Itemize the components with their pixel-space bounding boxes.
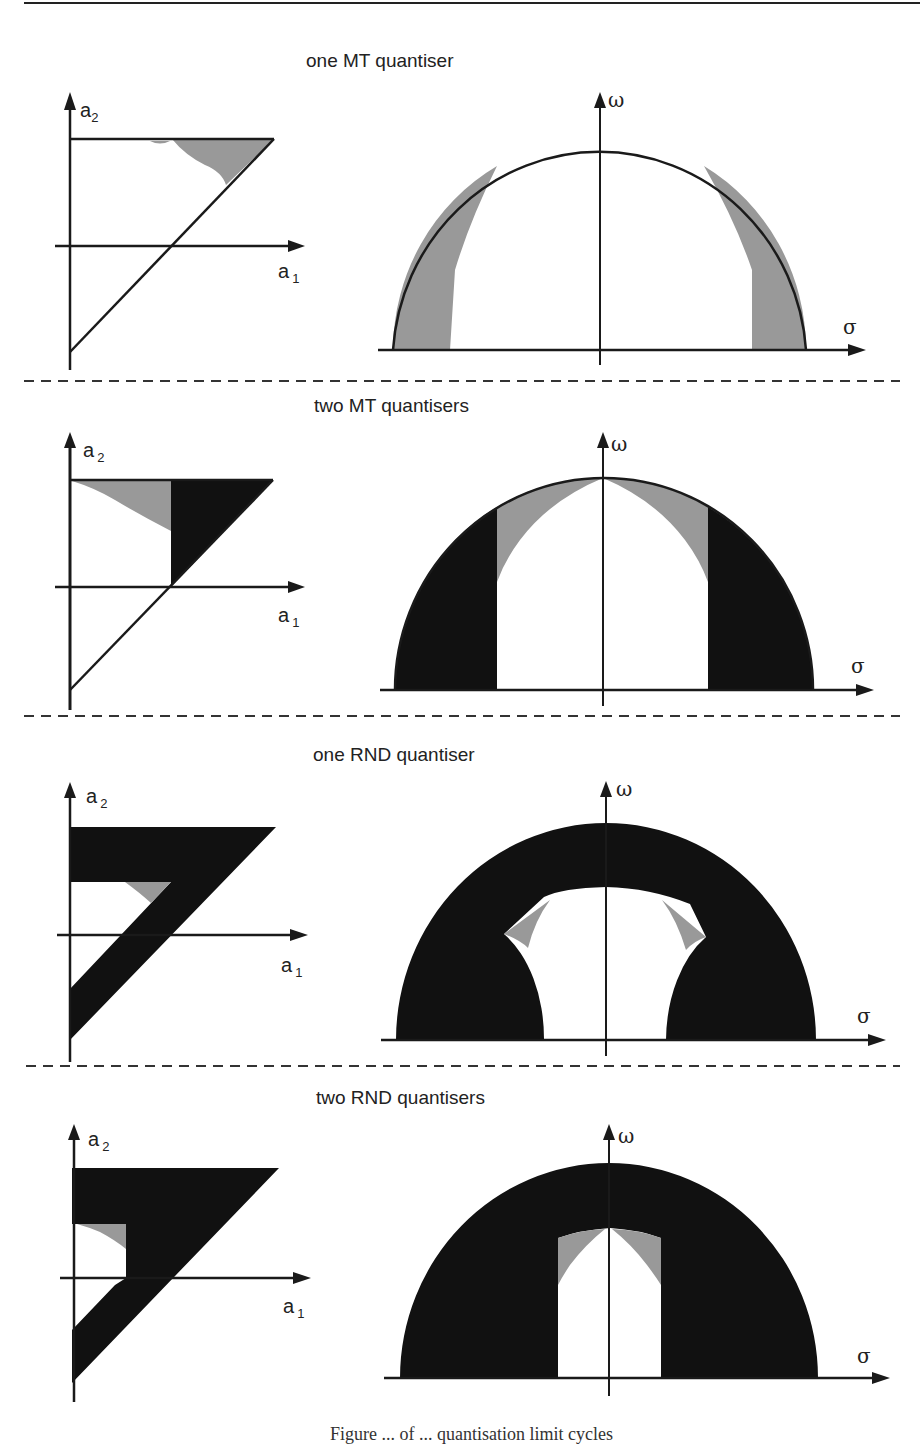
a1-axis-arrow-icon	[293, 1272, 311, 1284]
s-plane-two-rnd: ω σ	[384, 1124, 890, 1396]
a2-label: a2	[88, 1128, 109, 1154]
sigma-label: σ	[857, 1344, 871, 1368]
figure-caption-fragment: Figure ... of ... quantisation limit cyc…	[330, 1424, 613, 1445]
omega-label: ω	[618, 1124, 634, 1148]
coefficient-plane-two-rnd: a2 a1	[60, 1124, 311, 1402]
sigma-axis-arrow-icon	[872, 1372, 890, 1384]
omega-axis-arrow-icon	[603, 1124, 615, 1140]
a2-axis-arrow-icon	[68, 1124, 80, 1140]
a1-label: a1	[283, 1295, 304, 1321]
